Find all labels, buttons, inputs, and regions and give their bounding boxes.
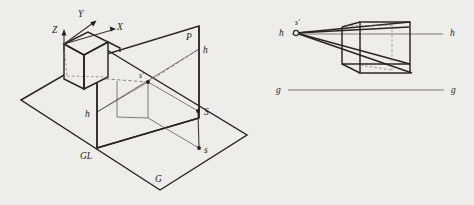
projector-horizontal-lower [117,117,148,118]
label-picture-plane: P [185,32,192,42]
point-sprime-marker [146,80,150,84]
axis-z-arrowhead [62,29,67,36]
label-axis-x: X [116,22,124,32]
object-box [64,32,108,89]
axis-y-arrowhead [90,21,96,27]
plan-line-sprime-to-S [148,82,198,111]
label-horizon-right: h [203,45,208,55]
label-ground-right: g [451,85,456,95]
projector-horizontal-upper [97,82,148,112]
technical-diagram: Z Y X P h h GL G S s s' [0,0,474,205]
ray-bottom-far [296,33,412,73]
hidden-ray-sprime-to-plane [148,49,199,82]
left-diagram: Z Y X P h h GL G S s s' [21,9,247,190]
label-station-point: S [204,107,209,117]
point-S-marker [196,109,200,113]
label-horizon-left: h [85,109,90,119]
point-s-marker [197,146,201,150]
label-ground-line: GL [80,151,92,161]
ground-plane-outline [21,50,247,190]
ray-bottom-near [296,33,410,64]
label-ground-plane: G [155,174,162,184]
label-axis-z: Z [52,25,58,35]
label-axis-y: Y [78,9,85,19]
label-horizon-left-right-diagram: h [279,28,284,38]
label-horizon-right-right-diagram: h [450,28,455,38]
plan-line-to-s [148,118,199,148]
ground-line-edge [97,118,199,148]
label-eye-point-image: s' [139,71,144,80]
box-far-top-edge [342,22,360,27]
axis-x-arrowhead [110,27,116,32]
right-diagram: h h s' g g [276,18,456,95]
label-vanishing-point: s' [295,18,300,27]
label-station-plan: s [204,145,208,155]
label-ground-left: g [276,85,281,95]
point-vanishing-outer [293,30,298,35]
